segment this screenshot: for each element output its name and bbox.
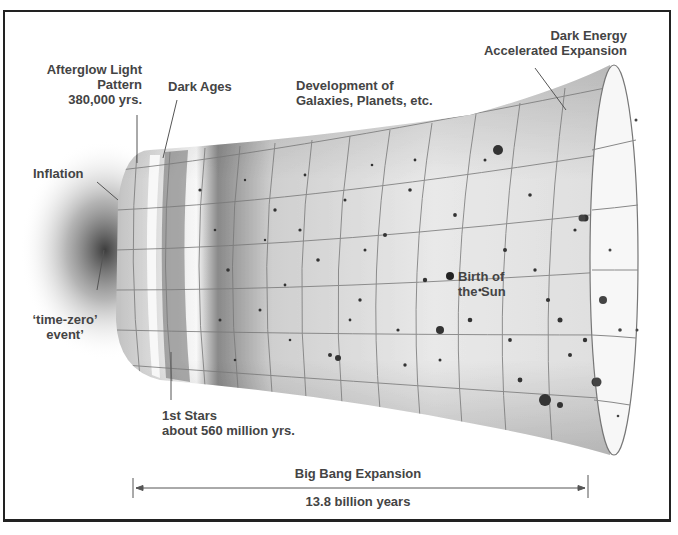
dark-ages-label: Dark Ages [168, 79, 232, 94]
timeline-duration: 13.8 billion years [233, 494, 483, 509]
dark-energy-label: Dark Energy Accelerated Expansion [430, 28, 627, 58]
first-stars-line1: 1st Stars [162, 408, 295, 423]
time-zero-label: ‘time-zero’ event’ [22, 312, 108, 342]
universe-funnel [110, 60, 650, 460]
time-zero-line1: ‘time-zero’ [22, 312, 108, 327]
birth-of-sun-line2: the Sun [458, 284, 506, 299]
afterglow-line1: Afterglow Light [28, 62, 142, 77]
sun-marker [446, 272, 454, 280]
first-stars-line2: about 560 million yrs. [162, 423, 295, 438]
afterglow-label: Afterglow Light Pattern 380,000 yrs. [28, 62, 142, 107]
development-line2: Galaxies, Planets, etc. [296, 93, 433, 108]
afterglow-line2: Pattern [28, 77, 142, 92]
dark-energy-line1: Dark Energy [430, 28, 627, 43]
inflation-label: Inflation [33, 166, 84, 181]
time-zero-line2: event’ [22, 327, 108, 342]
funnel-mouth [590, 65, 638, 455]
afterglow-line3: 380,000 yrs. [28, 92, 142, 107]
birth-of-sun-line1: Birth of [458, 269, 506, 284]
development-line1: Development of [296, 78, 433, 93]
birth-of-sun-label: Birth of the Sun [458, 269, 506, 299]
first-stars-label: 1st Stars about 560 million yrs. [162, 408, 295, 438]
development-label: Development of Galaxies, Planets, etc. [296, 78, 433, 108]
dark-energy-line2: Accelerated Expansion [430, 43, 627, 58]
timeline-label: Big Bang Expansion [233, 466, 483, 481]
